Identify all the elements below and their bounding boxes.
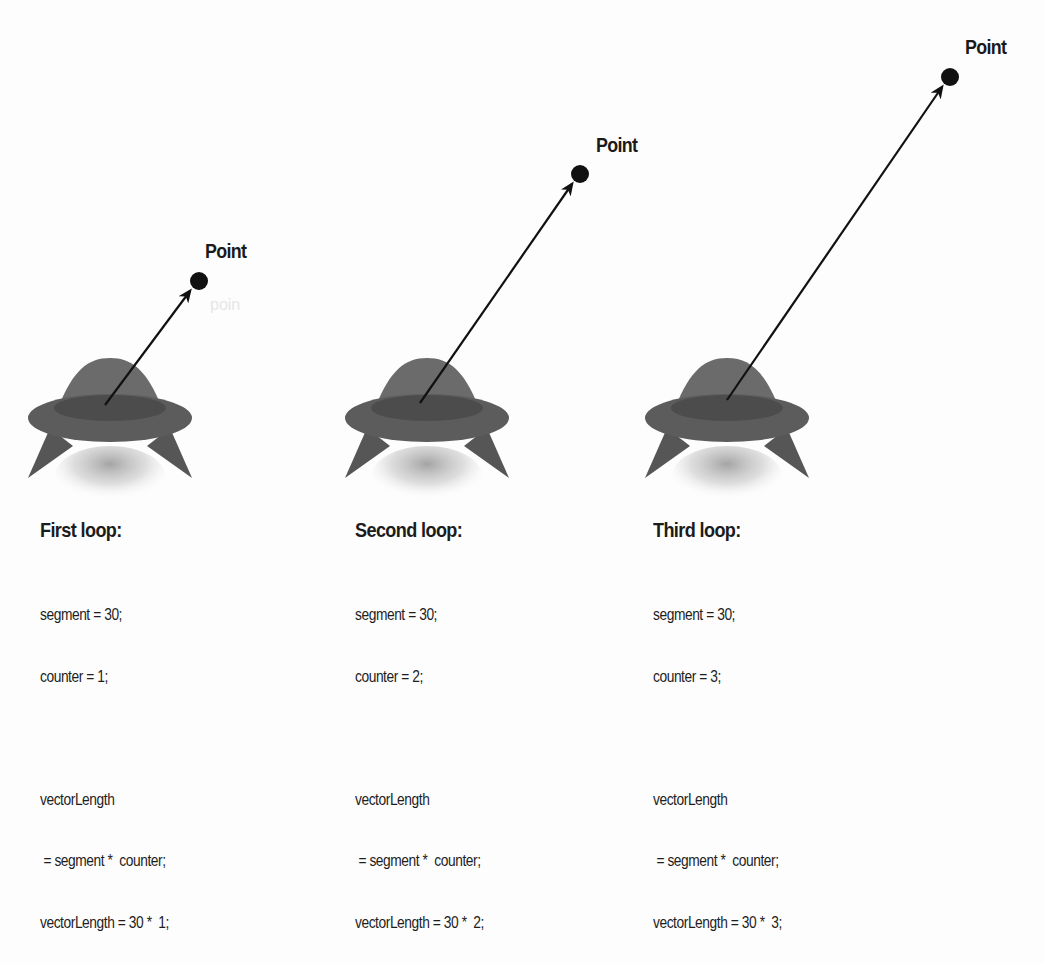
bleed-through-text: poin [210, 296, 240, 314]
code-line: = segment * counter; [40, 851, 298, 872]
panel-title: Third loop: [653, 518, 911, 544]
code-line: = segment * counter; [355, 851, 613, 872]
point-label-2: Point [596, 133, 637, 157]
code-line: segment = 30; [355, 605, 613, 626]
code-line: vectorLength = 30 * 2; [355, 913, 613, 934]
point-label-1: Point [205, 239, 246, 263]
vector-arrow-3 [727, 87, 942, 400]
point-dot-1 [190, 272, 208, 290]
vector-arrow-2 [420, 184, 572, 403]
ufo-icon-2 [345, 358, 509, 506]
code-line: vectorLength = 30 * 3; [653, 913, 911, 934]
code-line: vectorLength [40, 790, 298, 811]
code-line-blank [40, 728, 298, 749]
loop-panel-first: First loop: segment = 30; counter = 1; v… [40, 518, 340, 964]
diagram-figure: poin Point Point Point First loop: segme… [0, 0, 1045, 964]
code-block: segment = 30; counter = 1; vectorLength … [40, 564, 298, 964]
code-line: vectorLength = 30 * 1; [40, 913, 298, 934]
code-block: segment = 30; counter = 3; vectorLength … [653, 564, 911, 964]
code-line: segment = 30; [653, 605, 911, 626]
point-dot-2 [571, 165, 589, 183]
point-label-3: Point [965, 35, 1006, 59]
code-line: counter = 3; [653, 667, 911, 688]
code-line: segment = 30; [40, 605, 298, 626]
code-line-blank [653, 728, 911, 749]
code-line: counter = 2; [355, 667, 613, 688]
code-line-blank [355, 728, 613, 749]
ufo-icon-3 [645, 358, 809, 506]
code-line: counter = 1; [40, 667, 298, 688]
ufo-icon-1 [28, 358, 192, 506]
code-block: segment = 30; counter = 2; vectorLength … [355, 564, 613, 964]
code-line: vectorLength [355, 790, 613, 811]
code-line: = segment * counter; [653, 851, 911, 872]
panel-title: First loop: [40, 518, 298, 544]
point-dot-3 [941, 68, 959, 86]
loop-panel-third: Third loop: segment = 30; counter = 3; v… [653, 518, 953, 964]
code-line: vectorLength [653, 790, 911, 811]
panel-title: Second loop: [355, 518, 613, 544]
loop-panel-second: Second loop: segment = 30; counter = 2; … [355, 518, 655, 964]
